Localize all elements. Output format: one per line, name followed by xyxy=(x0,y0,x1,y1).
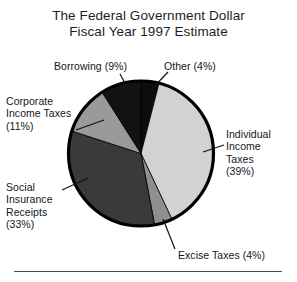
slice-label-other: Other (4%) xyxy=(164,60,244,72)
slice-label-individual-income-taxes: Individual Income Taxes (39%) xyxy=(226,128,294,178)
slice-label-corporate-income-taxes: Corporate Income Taxes (11%) xyxy=(6,95,88,132)
slice-label-excise-taxes: Excise Taxes (4%) xyxy=(178,249,296,261)
footer-divider xyxy=(14,271,282,272)
slice-label-borrowing: Borrowing (9%) xyxy=(54,60,162,72)
slice-label-social-insurance-receipts: Social Insurance Receipts (33%) xyxy=(6,181,86,231)
pie-chart: Borrowing (9%) Other (4%) Corporate Inco… xyxy=(0,0,297,282)
leader-line-excise xyxy=(163,219,175,249)
